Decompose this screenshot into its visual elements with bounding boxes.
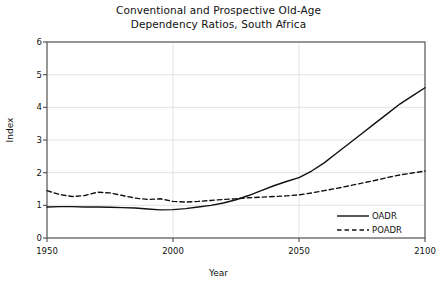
legend-item-poadr: POADR [372,225,402,235]
y-tick-label: 0 [18,233,42,243]
axis-ticks [43,42,425,242]
y-axis-label: Index [5,105,15,155]
data-series [47,88,425,210]
x-tick-label: 2050 [288,246,310,256]
legend-item-oadr: OADR [372,211,397,221]
legend-marks [337,216,369,230]
y-tick-label: 6 [18,37,42,47]
y-tick-label: 2 [18,168,42,178]
y-tick-label: 4 [18,102,42,112]
x-axis-label: Year [0,268,437,278]
x-tick-label: 2100 [414,246,436,256]
y-tick-label: 1 [18,200,42,210]
plot-area [0,0,437,291]
y-tick-label: 5 [18,70,42,80]
chart-figure: Conventional and Prospective Old-AgeDepe… [0,0,437,291]
x-tick-label: 2000 [162,246,184,256]
gridlines [47,42,425,238]
x-tick-label: 1950 [36,246,58,256]
y-tick-label: 3 [18,135,42,145]
